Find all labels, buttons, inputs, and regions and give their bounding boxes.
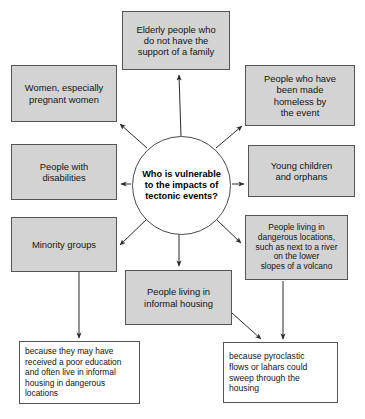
- node-disabilities[interactable]: People with disabilities: [11, 144, 117, 200]
- node-homeless[interactable]: People who have been made homeless by th…: [245, 65, 355, 126]
- node-young-children[interactable]: Young children and orphans: [248, 145, 355, 197]
- connector-informal-to-pyroclastic: [232, 313, 261, 339]
- connector-center-to-minority: [120, 219, 147, 245]
- connector-center-to-women: [120, 124, 147, 148]
- node-because-education[interactable]: because they may have received a poor ed…: [19, 341, 140, 404]
- node-elderly[interactable]: Elderly people who do not have the suppo…: [122, 11, 230, 70]
- node-because-pyroclastic[interactable]: because pyroclastic flows or lahars coul…: [223, 342, 338, 403]
- connector-center-to-elderly: [179, 75, 181, 136]
- node-women-label: Women, especially pregnant women: [12, 82, 116, 104]
- node-because-pyroclastic-label: because pyroclastic flows or lahars coul…: [224, 351, 337, 394]
- central-question-node[interactable]: Who is vulnerable to the impacts of tect…: [132, 136, 231, 235]
- node-homeless-label: People who have been made homeless by th…: [246, 73, 354, 117]
- node-young-children-label: Young children and orphans: [249, 160, 354, 182]
- node-minority-groups[interactable]: Minority groups: [11, 217, 117, 272]
- connector-center-to-homeless: [216, 126, 242, 148]
- node-dangerous-locations[interactable]: People living in dangerous locations, su…: [245, 215, 348, 280]
- connector-center-to-dangerous: [216, 219, 241, 243]
- node-informal-housing[interactable]: People living in informal housing: [125, 270, 232, 325]
- node-women[interactable]: Women, especially pregnant women: [11, 65, 117, 122]
- node-minority-groups-label: Minority groups: [12, 239, 116, 250]
- node-elderly-label: Elderly people who do not have the suppo…: [123, 24, 229, 57]
- diagram-canvas: Elderly people who do not have the suppo…: [0, 0, 365, 419]
- node-dangerous-locations-label: People living in dangerous locations, su…: [246, 223, 347, 273]
- node-because-education-label: because they may have received a poor ed…: [20, 346, 139, 399]
- node-disabilities-label: People with disabilities: [12, 161, 116, 183]
- central-question-label: Who is vulnerable to the impacts of tect…: [138, 169, 225, 202]
- node-informal-housing-label: People living in informal housing: [126, 286, 231, 308]
